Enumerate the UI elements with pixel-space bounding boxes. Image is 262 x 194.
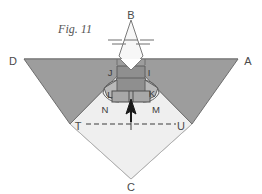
vertex-label-A: A <box>244 55 252 67</box>
figure-caption: Fig. 11 <box>57 22 92 36</box>
vertex-label-T: T <box>75 120 82 132</box>
vertex-label-L: L <box>107 89 112 100</box>
central-flap-shoulders <box>112 78 150 92</box>
vertex-label-J: J <box>108 67 113 78</box>
vertex-label-I: I <box>148 67 151 78</box>
figure-11-container: B D A J I L K N M T U C Fig. 11 <box>0 0 262 194</box>
vertex-label-D: D <box>9 55 17 67</box>
origami-fold-diagram: B D A J I L K N M T U C Fig. 11 <box>0 0 262 194</box>
vertex-label-K: K <box>149 88 156 99</box>
vertex-label-M: M <box>152 104 160 115</box>
vertex-label-U: U <box>177 120 185 132</box>
vertex-label-C: C <box>127 181 135 193</box>
vertex-label-N: N <box>102 104 109 115</box>
vertex-label-B: B <box>127 9 134 21</box>
